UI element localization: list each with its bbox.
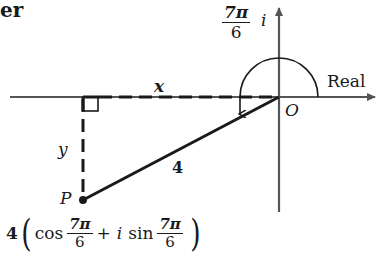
hypotenuse-label: 4	[172, 160, 183, 176]
real-axis-label: Real	[327, 73, 365, 90]
formula-fraction-1: 7π 6	[67, 217, 92, 250]
y-label: y	[58, 141, 68, 158]
formula-plus: +	[97, 223, 111, 243]
point-p	[79, 196, 87, 204]
formula-i: i	[117, 223, 122, 243]
formula-cos: cos	[35, 223, 63, 243]
fragment-text: er	[0, 0, 23, 20]
formula-sin: sin	[128, 223, 153, 243]
point-label: P	[60, 190, 71, 207]
radius-segment	[83, 97, 279, 200]
formula-coefficient: 4	[6, 223, 18, 243]
x-label: x	[154, 78, 164, 95]
angle-label: 7π 6	[222, 4, 250, 41]
origin-label: O	[285, 102, 299, 119]
close-paren: )	[190, 214, 200, 252]
formula-fraction-2: 7π 6	[157, 217, 182, 250]
angle-numerator: 7π	[222, 4, 250, 23]
polar-form-formula: 4 ( cos 7π 6 + i sin 7π 6 )	[6, 214, 204, 252]
right-angle-marker	[83, 97, 98, 111]
angle-denominator: 6	[231, 23, 242, 41]
imaginary-axis-label: i	[261, 12, 266, 29]
open-paren: (	[21, 214, 31, 252]
